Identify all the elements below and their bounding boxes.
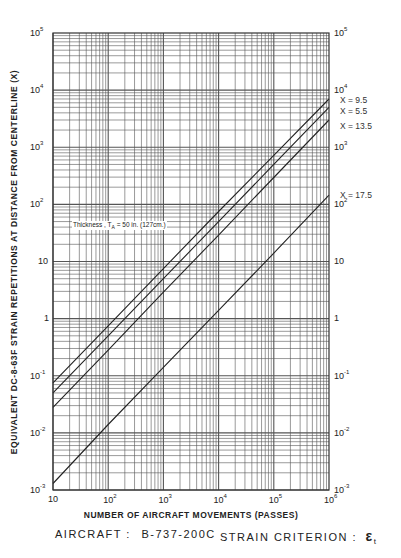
x-tick: 104 bbox=[214, 494, 227, 505]
y-tick-left: 10-3 bbox=[30, 484, 45, 495]
curve-label-x95: X = 9.5 bbox=[340, 95, 367, 105]
y-tick-left: 10-1 bbox=[30, 370, 45, 381]
curve-label-x55: X = 5.5 bbox=[340, 106, 367, 116]
curve-135 bbox=[53, 120, 329, 407]
y-tick-left: 105 bbox=[30, 27, 43, 38]
x-tick: 102 bbox=[103, 494, 116, 505]
strain-criterion-caption: STRAIN CRITERION : εt bbox=[220, 528, 377, 546]
thickness-annotation: Thickness , TA = 50 in. (127cm.) bbox=[72, 221, 167, 230]
y-tick-left: 1 bbox=[44, 313, 49, 323]
y-tick-left: 10-2 bbox=[30, 427, 45, 438]
aircraft-caption: AIRCRAFT : B-737-200C bbox=[55, 528, 216, 540]
y-tick-left: 102 bbox=[30, 198, 43, 209]
x-tick: 106 bbox=[324, 494, 337, 505]
y-tick-left: 103 bbox=[30, 141, 43, 152]
y-tick-right: 102 bbox=[334, 198, 347, 209]
chart-grid bbox=[53, 33, 329, 490]
y-tick-left: 104 bbox=[30, 84, 43, 95]
y-tick-right: 10-2 bbox=[334, 427, 349, 438]
y-tick-right: 1 bbox=[334, 313, 339, 323]
x-tick: 10 bbox=[48, 494, 58, 504]
x-tick: 103 bbox=[158, 494, 171, 505]
x-tick: 105 bbox=[269, 494, 282, 505]
y-tick-right: 103 bbox=[334, 141, 347, 152]
curve-label-x135: X = 13.5 bbox=[340, 121, 372, 131]
x-axis-title: NUMBER OF AIRCRAFT MOVEMENTS (PASSES) bbox=[53, 510, 329, 520]
curve-label-x175: X = 17.5 bbox=[340, 190, 372, 200]
y-tick-left: 10 bbox=[38, 256, 48, 266]
y-tick-right: 10 bbox=[334, 256, 344, 266]
y-tick-right: 10-1 bbox=[334, 370, 349, 381]
curve-95 bbox=[53, 99, 329, 383]
y-tick-right: 105 bbox=[334, 27, 347, 38]
y-tick-right: 104 bbox=[334, 84, 347, 95]
